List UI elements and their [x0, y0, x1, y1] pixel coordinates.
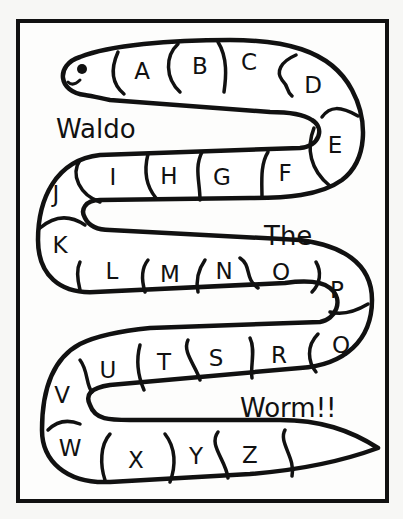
letter-o: O	[272, 259, 290, 285]
letter-m: M	[160, 261, 180, 287]
letter-a: A	[134, 58, 150, 84]
letter-b: B	[192, 53, 208, 79]
letter-y: Y	[188, 443, 204, 469]
letter-w: W	[59, 435, 82, 461]
worm-eye-icon	[77, 64, 87, 74]
letter-t: T	[156, 349, 172, 375]
letter-k: K	[52, 232, 68, 258]
letter-s: S	[209, 345, 224, 371]
letter-r: R	[271, 342, 287, 368]
letter-p: P	[330, 277, 344, 303]
letter-l: L	[106, 258, 119, 284]
caption-the: The	[263, 221, 312, 251]
letter-d: D	[304, 72, 322, 98]
caption-worm: Worm!!	[240, 393, 337, 423]
letter-q: Q	[332, 332, 350, 358]
worm-alphabet-worksheet: A B C D E F G H I J K L M N O P Q R S T …	[0, 0, 403, 519]
letter-f: F	[278, 160, 291, 186]
letter-h: H	[160, 163, 177, 189]
letter-j: J	[51, 181, 60, 207]
letter-z: Z	[242, 442, 258, 468]
caption-waldo: Waldo	[56, 114, 136, 144]
letter-u: U	[100, 357, 117, 383]
letter-x: X	[128, 447, 144, 473]
letter-v: V	[54, 382, 70, 408]
letter-i: I	[110, 164, 117, 190]
letter-n: N	[215, 258, 232, 284]
letter-e: E	[328, 132, 343, 158]
letter-g: G	[213, 164, 231, 190]
letter-c: C	[241, 49, 257, 75]
